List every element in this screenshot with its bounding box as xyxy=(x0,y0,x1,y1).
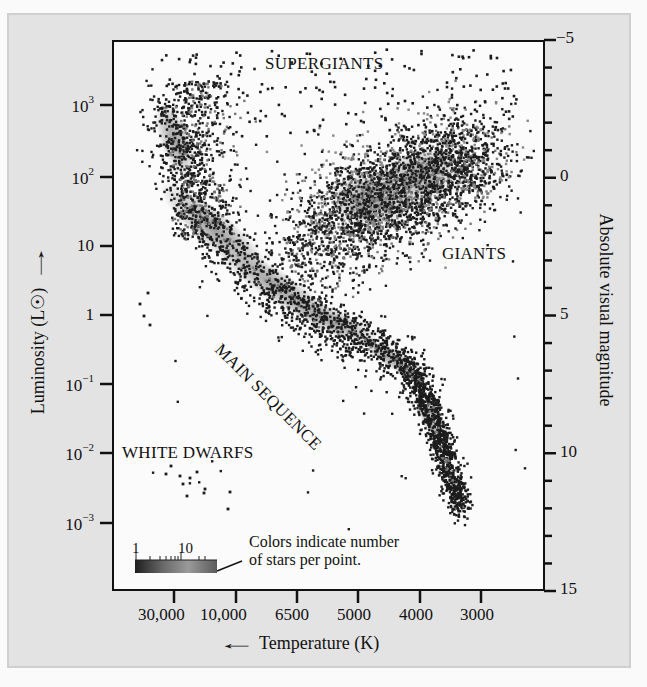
magnitude-tick: 0 xyxy=(560,167,569,184)
legend-leader-line xyxy=(217,561,242,571)
luminosity-tick: 10−3 xyxy=(34,514,94,533)
giants-label: GIANTS xyxy=(442,245,506,262)
luminosity-tick: 103 xyxy=(34,96,94,115)
magnitude-tick: −5 xyxy=(556,29,574,46)
x-axis-title-text: Temperature (K) xyxy=(259,633,379,653)
legend-text-line1: Colors indicate number xyxy=(249,533,399,551)
temperature-tick: 5000 xyxy=(337,606,371,623)
luminosity-tick: 10−2 xyxy=(34,444,94,463)
y-axis-title-text: Luminosity (L☉) xyxy=(28,288,48,415)
supergiants-label: SUPERGIANTS xyxy=(265,55,384,72)
white-dwarfs-label: WHITE DWARFS xyxy=(122,444,254,461)
legend-text-line2: of stars per point. xyxy=(249,551,399,569)
y-axis-title: Luminosity (L☉)→ xyxy=(29,266,47,415)
temperature-tick: 6500 xyxy=(275,606,309,623)
colorbar-label-10: 10 xyxy=(178,541,193,556)
x-axis-title: ←Temperature (K) xyxy=(238,634,379,652)
up-arrow-icon: → xyxy=(29,244,47,284)
legend-text: Colors indicate number of stars per poin… xyxy=(249,533,399,569)
magnitude-tick: 10 xyxy=(560,443,577,460)
temperature-tick: 3000 xyxy=(460,606,494,623)
magnitude-tick: 5 xyxy=(560,305,569,322)
hr-diagram-plot xyxy=(0,0,647,687)
luminosity-tick: 102 xyxy=(34,168,94,187)
temperature-tick: 10,000 xyxy=(200,606,247,623)
temperature-tick: 4000 xyxy=(399,606,433,623)
magnitude-tick: 15 xyxy=(560,580,577,597)
colorbar-label-1: 1 xyxy=(132,541,140,556)
y2-axis-title: Absolute visual magnitude xyxy=(597,214,615,407)
left-arrow-icon: ← xyxy=(216,634,256,652)
temperature-tick: 30,000 xyxy=(138,606,185,623)
